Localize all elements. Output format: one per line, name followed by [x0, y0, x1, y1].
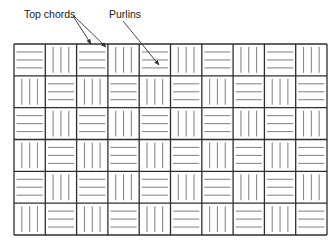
roof-framing-grid-diagram: [0, 0, 336, 252]
leader-arrow-purlins: [123, 21, 159, 65]
